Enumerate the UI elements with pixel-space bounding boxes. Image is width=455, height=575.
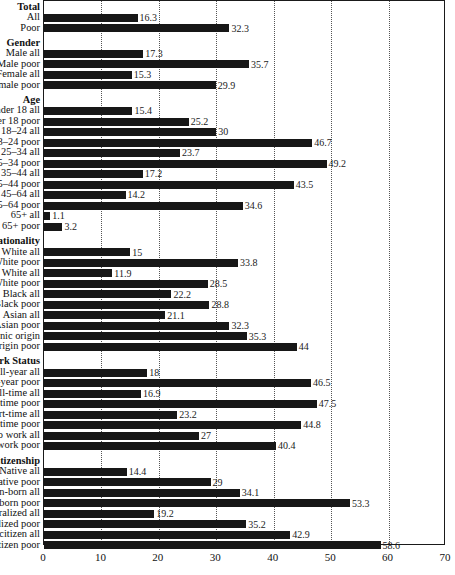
bar — [44, 332, 247, 340]
bar — [44, 160, 327, 168]
bar — [44, 400, 317, 408]
horizontal-bar-chart: TotalAllPoorGenderMale allMale poorFemal… — [0, 0, 455, 575]
bar-value-label: 18 — [149, 368, 159, 378]
bar — [44, 301, 209, 309]
bar — [44, 223, 62, 231]
bar — [44, 468, 127, 476]
bar — [44, 489, 240, 497]
x-tick-label-10: 10 — [95, 551, 106, 563]
bar — [44, 248, 130, 256]
bar-value-label: 16.9 — [143, 389, 161, 399]
bar-value-label: 46.7 — [314, 138, 332, 148]
bar-value-label: 17.2 — [145, 169, 163, 179]
x-tick-label-0: 0 — [40, 551, 46, 563]
bar-value-label: 27 — [201, 431, 211, 441]
bar-value-label: 29.9 — [218, 81, 236, 91]
bar — [44, 181, 294, 189]
bar — [44, 343, 297, 351]
bar — [44, 499, 350, 507]
x-tick-label-60: 60 — [382, 551, 393, 563]
bar — [44, 269, 112, 277]
bar — [44, 139, 312, 147]
bar-value-label: 44 — [299, 342, 309, 352]
plot-area: 16.332.317.335.715.329.915.425.23046.723… — [43, 0, 445, 545]
bar-value-label: 1.1 — [52, 211, 65, 221]
bar-value-label: 28.8 — [211, 300, 229, 310]
bar — [44, 411, 177, 419]
bar-value-label: 28.5 — [210, 279, 228, 289]
bar — [44, 510, 154, 518]
bar — [44, 14, 138, 22]
bar-value-label: 53.3 — [352, 499, 370, 509]
bar — [44, 531, 290, 539]
bar-value-label: 35.3 — [249, 332, 267, 342]
bar — [44, 390, 141, 398]
bar-value-label: 21.1 — [167, 311, 185, 321]
row-label: All — [0, 12, 40, 23]
x-tick-label-50: 50 — [325, 551, 336, 563]
gridline-50 — [331, 1, 332, 544]
bar-value-label: 40.4 — [278, 441, 296, 451]
bar-value-label: 35.2 — [248, 520, 266, 530]
bar-value-label: 14.4 — [129, 467, 147, 477]
gridline-60 — [389, 1, 390, 544]
bar — [44, 311, 165, 319]
bar-value-label: 16.3 — [140, 13, 158, 23]
bar-value-label: 49.2 — [329, 159, 347, 169]
bar — [44, 118, 189, 126]
bar-value-label: 23.7 — [182, 148, 200, 158]
bar — [44, 259, 238, 267]
category-label-column: TotalAllPoorGenderMale allMale poorFemal… — [0, 0, 43, 545]
gridline-40 — [274, 1, 275, 544]
bar — [44, 280, 208, 288]
bar-value-label: 47.5 — [319, 399, 337, 409]
bar-value-label: 15.3 — [134, 70, 152, 80]
bar — [44, 107, 132, 115]
x-tick-label-30: 30 — [210, 551, 221, 563]
bar — [44, 71, 132, 79]
bar — [44, 24, 229, 32]
bar — [44, 128, 216, 136]
x-tick-label-20: 20 — [152, 551, 163, 563]
bar-value-label: 34.6 — [245, 201, 263, 211]
bar — [44, 50, 143, 58]
bar-value-label: 46.5 — [313, 378, 331, 388]
bar-value-label: 11.9 — [114, 269, 131, 279]
bar — [44, 290, 171, 298]
bar — [44, 191, 126, 199]
bar-value-label: 3.2 — [64, 222, 77, 232]
row-label: Hispanic origin poor — [0, 341, 40, 352]
bar-value-label: 33.8 — [240, 258, 258, 268]
bar — [44, 170, 143, 178]
bar-value-label: 22.2 — [173, 290, 191, 300]
bar-value-label: 43.5 — [296, 180, 314, 190]
bar-value-label: 32.3 — [231, 321, 249, 331]
bar-value-label: 42.9 — [292, 530, 310, 540]
bar-value-label: 25.2 — [191, 117, 209, 127]
bar — [44, 322, 229, 330]
row-label: Non-citizen poor — [0, 540, 40, 551]
bar — [44, 81, 216, 89]
bar — [44, 369, 147, 377]
bar-value-label: 32.3 — [231, 24, 249, 34]
bar-value-label: 17.3 — [145, 49, 163, 59]
bar — [44, 379, 311, 387]
row-label: 65+ poor — [0, 221, 40, 232]
bar — [44, 520, 246, 528]
bar — [44, 212, 50, 220]
x-tick-label-40: 40 — [267, 551, 278, 563]
bar-value-label: 35.7 — [251, 60, 269, 70]
bar-value-label: 19.2 — [156, 509, 174, 519]
bar-value-label: 30 — [218, 127, 228, 137]
bar — [44, 421, 301, 429]
x-tick-label-70: 70 — [440, 551, 451, 563]
bar — [44, 432, 199, 440]
bar-value-label: 44.8 — [303, 420, 321, 430]
row-label: No work poor — [0, 440, 40, 451]
bar — [44, 202, 243, 210]
row-label: Female poor — [0, 80, 40, 91]
bar — [44, 478, 211, 486]
bar-value-label: 15 — [132, 248, 142, 258]
bar-value-label: 34.1 — [242, 488, 260, 498]
bar-value-label: 14.2 — [128, 190, 146, 200]
